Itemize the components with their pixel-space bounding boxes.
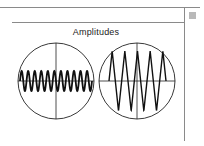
oscilloscope-figures [0,0,204,146]
left-scope [18,43,94,119]
right-scope [99,43,175,119]
